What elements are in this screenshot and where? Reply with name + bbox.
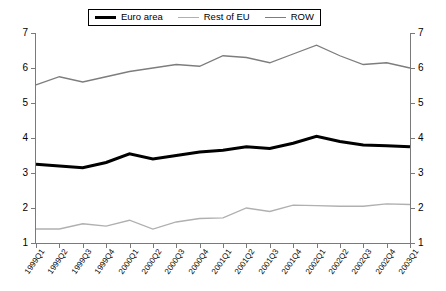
chart-legend: Euro area Rest of EU ROW <box>88 9 321 26</box>
line-chart: Euro area Rest of EU ROW 112233445566771… <box>0 0 446 291</box>
legend-swatch-icon <box>178 17 199 18</box>
legend-swatch-icon <box>265 17 286 18</box>
legend-label: Euro area <box>121 12 163 22</box>
series-line-row <box>36 45 410 85</box>
legend-item-rest-of-eu: Rest of EU <box>178 12 250 22</box>
legend-item-euro-area: Euro area <box>95 12 163 22</box>
series-layer <box>0 0 446 291</box>
legend-label: Rest of EU <box>204 12 250 22</box>
legend-swatch-icon <box>95 16 116 19</box>
legend-item-row: ROW <box>265 12 314 22</box>
series-line-euro-area <box>36 136 410 168</box>
legend-label: ROW <box>291 12 314 22</box>
series-line-rest-of-eu <box>36 204 410 229</box>
